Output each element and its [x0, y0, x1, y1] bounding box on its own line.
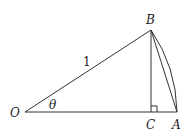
radius-label: 1 [83, 55, 91, 69]
segment-OB [25, 30, 151, 112]
right-angle-marker [151, 106, 157, 112]
geometry-diagram: O B C A θ 1 [0, 0, 193, 139]
label-O: O [10, 106, 20, 120]
label-A: A [171, 118, 181, 132]
label-C: C [146, 118, 155, 132]
angle-theta-label: θ [49, 98, 57, 112]
segment-BA-chord [151, 30, 177, 112]
label-B: B [145, 13, 155, 27]
